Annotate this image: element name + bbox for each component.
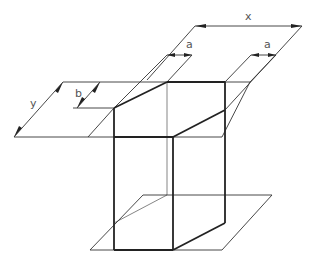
thick-lines [114,82,225,250]
y-dimension-line [14,82,63,137]
x-extension-left [147,26,195,80]
top-left-diagonal [114,82,167,108]
top-right-diagonal [173,110,225,137]
a-right-extension [225,55,251,82]
label-a-right: a [264,39,271,50]
a-right-extension-2 [250,55,276,82]
thin-lines [14,26,302,250]
arrow-y-top [55,82,63,93]
arrow-a-right-1 [251,53,259,57]
bottom-right-diagonal [173,223,225,250]
label-x: x [245,11,252,22]
label-a-left: a [186,39,193,50]
arrow-b-top [92,82,100,93]
a-left-extension-2 [114,55,167,108]
label-b: b [75,88,82,99]
lower-plane [90,195,272,250]
upper-plane-left-edge [88,108,114,137]
lower-thin-diagonal [114,195,167,223]
upper-plane [63,82,250,137]
isometric-box-drawing [0,0,320,267]
arrow-x-left [195,24,206,28]
arrowheads [14,24,302,137]
a-left-extension [167,55,192,82]
label-y: y [30,98,37,109]
arrow-y-bottom [14,126,22,137]
